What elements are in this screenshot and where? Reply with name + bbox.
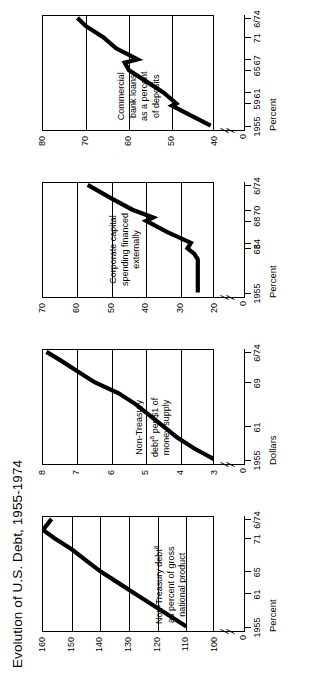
x-tick-label: 61	[252, 88, 262, 98]
zero-tick-label: 0	[238, 134, 248, 167]
x-tick	[244, 627, 251, 628]
chart-panel-4: 40506070800195559616567716/74PercentComm…	[42, 15, 270, 167]
annotation-line: externally	[131, 213, 143, 286]
chart-panel-3: 20304050607001955636468706/74PercentCorp…	[42, 182, 270, 334]
y-tick-label: 3	[209, 470, 219, 475]
x-tick	[244, 460, 251, 461]
x-tick-label: 59	[252, 99, 262, 109]
y-tick-label: 20	[209, 303, 219, 313]
x-tick	[244, 593, 251, 594]
annotation-line: Corporate capital	[108, 213, 120, 286]
axis-unit-label-2: Dollars	[267, 435, 278, 465]
y-tick-label: 40	[209, 136, 219, 146]
figure-root: Evolution of U.S. Debt, 1955-1974 100110…	[0, 0, 315, 682]
y-axis-labels-3: 203040506070	[42, 300, 214, 334]
axis-unit-label-1: Percent	[267, 599, 278, 632]
y-tick-label: 7	[71, 470, 81, 475]
axis-unit-label-4: Percent	[267, 98, 278, 131]
y-tick-label: 40	[140, 303, 150, 313]
x-tick	[244, 426, 251, 427]
x-tick-label: 65	[252, 66, 262, 76]
y-tick-label: 150	[66, 637, 76, 652]
y-tick-label: 130	[123, 637, 133, 652]
y-tick-label: 6	[106, 470, 116, 475]
footnote-superscript: a	[152, 546, 159, 550]
x-tick-label: 6/74	[252, 511, 262, 529]
annotation-line: bank loans	[128, 71, 140, 121]
y-axis-labels-1: 100110120130140150160	[42, 634, 214, 668]
x-tick	[244, 382, 251, 383]
y-tick-label: 100	[209, 637, 219, 652]
x-tick	[244, 104, 251, 105]
annotation-line: debta per $1 of	[146, 398, 162, 457]
x-axis-labels-3: 1955636468706/74	[252, 182, 266, 298]
x-tick	[244, 59, 251, 60]
x-axis-ticks-1	[244, 516, 251, 632]
y-tick-label: 120	[152, 637, 162, 652]
x-tick	[244, 243, 251, 244]
x-tick-label: 71	[252, 534, 262, 544]
x-axis-ticks-2	[244, 349, 251, 465]
x-tick	[244, 126, 251, 127]
y-tick-label: 60	[71, 303, 81, 313]
panel-annotation-4: Commercialbank loansas a percentof depos…	[116, 71, 162, 121]
x-tick	[244, 248, 251, 249]
x-tick	[244, 210, 251, 211]
x-tick	[244, 92, 251, 93]
x-tick	[244, 37, 251, 38]
y-tick-label: 4	[175, 470, 185, 475]
y-tick-label: 160	[37, 637, 47, 652]
axis-unit-label-3: Percent	[267, 265, 278, 298]
y-tick-label: 5	[140, 470, 150, 475]
chart-panel-1: 100110120130140150160019556165716/74Perc…	[42, 516, 270, 668]
x-axis-labels-2: 195561696/74	[252, 349, 266, 465]
x-axis-ticks-3	[244, 182, 251, 298]
panel-annotation-1: Non-Treasury debtaas percent of grossnat…	[150, 546, 189, 624]
x-tick-label: 65	[252, 567, 262, 577]
y-axis-labels-2: 345678	[42, 467, 214, 501]
x-tick	[244, 293, 251, 294]
axis-break-2	[214, 349, 244, 465]
axis-break-1	[214, 516, 244, 632]
chart-panel-2: 3456780195561696/74DollarsNon-Treasuryde…	[42, 349, 270, 501]
y-tick-label: 50	[106, 303, 116, 313]
axis-break-3	[214, 182, 244, 298]
footnote-superscript: a	[148, 436, 155, 440]
zero-tick-label: 0	[238, 635, 248, 668]
x-tick	[244, 352, 251, 353]
y-tick-label: 30	[175, 303, 185, 313]
panel-annotation-3: Corporate capitalspending financedextern…	[108, 213, 143, 286]
x-tick	[244, 221, 251, 222]
x-tick	[244, 70, 251, 71]
annotation-line: spending financed	[120, 213, 132, 286]
annotation-line: Non-Treasury	[134, 398, 146, 457]
x-tick-label: 1955	[252, 284, 262, 304]
annotation-line: national product	[177, 546, 189, 624]
data-series-2	[43, 349, 214, 464]
x-tick	[244, 571, 251, 572]
x-tick-label: 6/74	[252, 344, 262, 362]
x-tick	[244, 519, 251, 520]
x-tick-label: 68	[252, 217, 262, 227]
annotation-line: as percent of gross	[166, 546, 178, 624]
y-tick-label: 110	[180, 637, 190, 651]
x-tick-label: 69	[252, 378, 262, 388]
annotation-line: as a percent	[139, 71, 151, 121]
annotation-line: of deposits	[151, 71, 163, 121]
y-tick-label: 50	[166, 136, 176, 146]
x-tick-label: 67	[252, 55, 262, 65]
x-tick-label: 1955	[252, 618, 262, 638]
x-tick	[244, 538, 251, 539]
zero-tick-label: 0	[238, 301, 248, 334]
plot-area-2	[42, 349, 214, 465]
x-axis-labels-1: 19556165716/74	[252, 516, 266, 632]
y-tick-label: 8	[37, 470, 47, 475]
x-tick-label: 71	[252, 33, 262, 43]
annotation-line: Non-Treasury debta	[150, 546, 166, 624]
zero-tick-label: 0	[238, 468, 248, 501]
annotation-line: Commercial	[116, 71, 128, 121]
y-axis-labels-4: 4050607080	[42, 133, 214, 167]
y-tick-label: 60	[123, 136, 133, 146]
x-tick-label: 61	[252, 422, 262, 432]
panel-annotation-2: Non-Treasurydebta per $1 ofmoney supply	[134, 398, 173, 457]
